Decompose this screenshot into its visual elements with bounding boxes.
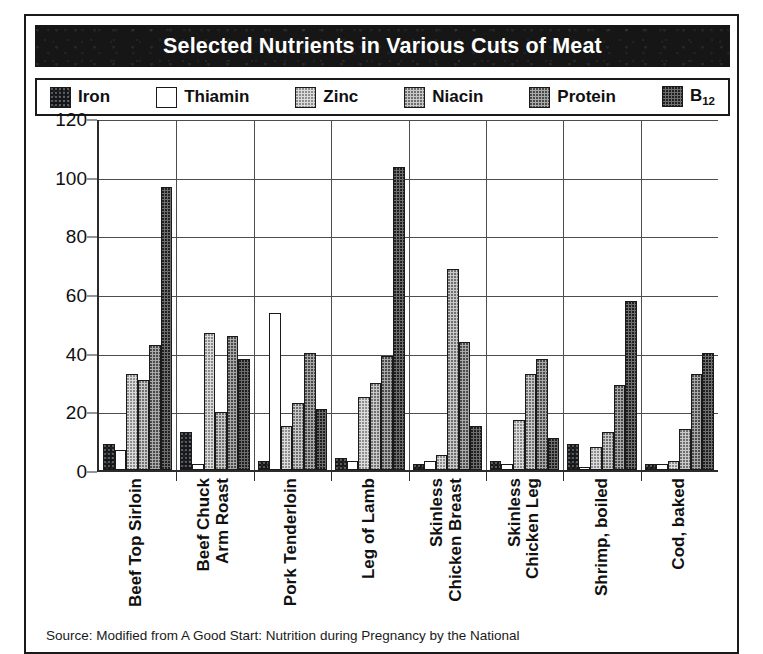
bar[interactable] (602, 432, 614, 470)
bar[interactable] (447, 269, 459, 470)
bar-groups (99, 120, 718, 470)
bar[interactable] (413, 464, 425, 470)
bar[interactable] (656, 464, 668, 470)
legend-item-zinc[interactable]: Zinc (295, 87, 358, 108)
bar[interactable] (258, 461, 270, 470)
y-tick-mark (87, 237, 97, 238)
bar[interactable] (126, 374, 138, 470)
source-note: Source: Modified from A Good Start: Nutr… (46, 628, 736, 644)
x-axis-label-line: Skinless (506, 478, 524, 547)
legend-item-thiamin[interactable]: Thiamin (156, 87, 249, 108)
bar-group (641, 120, 718, 470)
bar[interactable] (625, 301, 637, 470)
bar[interactable] (347, 461, 359, 470)
legend-item-protein[interactable]: Protein (529, 87, 616, 108)
bar[interactable] (424, 461, 436, 470)
bar-group (99, 120, 176, 470)
legend-label: Iron (78, 87, 110, 107)
bar[interactable] (459, 342, 471, 470)
x-axis-label-line: Arm Roast (214, 478, 232, 564)
bar[interactable] (304, 353, 316, 470)
bar[interactable] (614, 385, 626, 470)
bar[interactable] (668, 461, 680, 470)
bar[interactable] (215, 412, 227, 470)
legend-swatch-iron-icon (50, 87, 71, 108)
bar[interactable] (269, 313, 281, 471)
chart-title-banner: Selected Nutrients in Various Cuts of Me… (35, 25, 730, 67)
bar[interactable] (645, 464, 657, 470)
x-axis-label-2: Beef ChuckArm Roast (175, 472, 253, 642)
bar[interactable] (381, 356, 393, 470)
x-axis-label-line: Beef Chuck (195, 478, 213, 572)
x-axis-label-line: Skinless (428, 478, 446, 547)
bar[interactable] (525, 374, 537, 470)
x-axis-label-3: Pork Tenderloin (252, 472, 330, 642)
bar-group (563, 120, 640, 470)
y-axis: 020406080100120 (35, 120, 97, 472)
legend-label: B12 (690, 86, 715, 107)
figure-frame: Selected Nutrients in Various Cuts of Me… (24, 14, 739, 654)
bar[interactable] (513, 420, 525, 470)
x-axis-label-line: Leg of Lamb (360, 478, 378, 579)
plot-wrapper: 020406080100120 (35, 120, 730, 472)
bar[interactable] (103, 444, 115, 470)
bar[interactable] (149, 345, 161, 470)
legend-item-iron[interactable]: Iron (50, 87, 110, 108)
bar[interactable] (470, 426, 482, 470)
legend-label: Protein (557, 87, 616, 107)
bar-group (486, 120, 563, 470)
legend-swatch-b12-icon (662, 86, 683, 107)
y-tick-label: 100 (55, 168, 87, 190)
y-tick-label: 120 (55, 109, 87, 131)
y-tick-label: 80 (66, 226, 87, 248)
bar[interactable] (281, 426, 293, 470)
bar[interactable] (548, 438, 560, 470)
bar[interactable] (490, 461, 502, 470)
y-tick-mark (87, 354, 97, 355)
bar[interactable] (316, 409, 328, 470)
bar[interactable] (292, 403, 304, 470)
y-tick-mark (87, 413, 97, 414)
x-axis-label-line: Pork Tenderloin (282, 478, 300, 606)
bar[interactable] (567, 444, 579, 470)
bar[interactable] (115, 450, 127, 470)
bar[interactable] (579, 467, 591, 470)
bar[interactable] (691, 374, 703, 470)
legend-label: Niacin (432, 87, 483, 107)
bar[interactable] (501, 464, 513, 470)
bar[interactable] (358, 397, 370, 470)
bar[interactable] (192, 464, 204, 470)
x-axis-label-line: Cod, baked (670, 478, 688, 570)
page-title: Selected Nutrients in Various Cuts of Me… (35, 25, 730, 67)
bar[interactable] (370, 383, 382, 471)
bar[interactable] (536, 359, 548, 470)
x-axis-label-1: Beef Top Sirloin (97, 472, 175, 642)
x-axis-label-line: Beef Top Sirloin (127, 478, 145, 607)
bar-group (409, 120, 486, 470)
bar[interactable] (180, 432, 192, 470)
bar[interactable] (436, 455, 448, 470)
bar[interactable] (161, 187, 173, 470)
bar[interactable] (204, 333, 216, 470)
legend-item-niacin[interactable]: Niacin (404, 87, 483, 108)
x-axis-labels: Beef Top SirloinBeef ChuckArm RoastPork … (35, 472, 730, 642)
x-axis-label-8: Cod, baked (640, 472, 718, 642)
y-tick-label: 40 (66, 344, 87, 366)
x-axis-label-line: Shrimp, boiled (593, 478, 611, 596)
bar[interactable] (138, 380, 150, 470)
bar-group (176, 120, 253, 470)
bar[interactable] (590, 447, 602, 470)
bar[interactable] (702, 353, 714, 470)
x-axis-label-4: Leg of Lamb (330, 472, 408, 642)
x-axis-label-5: SkinlessChicken Breast (408, 472, 486, 642)
legend-item-b12[interactable]: B12 (662, 86, 715, 107)
bar[interactable] (238, 359, 250, 470)
y-tick-label: 60 (66, 285, 87, 307)
bar[interactable] (393, 167, 405, 470)
y-tick-label: 20 (66, 402, 87, 424)
bar[interactable] (679, 429, 691, 470)
x-axis-label-line: Chicken Breast (447, 478, 465, 602)
bar[interactable] (335, 458, 347, 470)
bar[interactable] (227, 336, 239, 470)
legend-swatch-zinc-icon (295, 87, 316, 108)
